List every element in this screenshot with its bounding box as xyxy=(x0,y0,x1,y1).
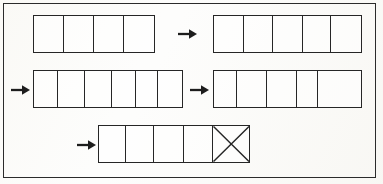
strip-cell xyxy=(112,71,136,107)
strip-cell xyxy=(184,126,213,162)
cell-strip-row1-right xyxy=(213,15,362,53)
strip-cell xyxy=(267,71,297,107)
strip-cell xyxy=(214,16,244,52)
strip-cell xyxy=(158,71,182,107)
right-arrow-icon xyxy=(178,28,197,40)
cell-strip-row1-left xyxy=(33,15,155,53)
strip-cell xyxy=(154,126,184,162)
strip-cell xyxy=(34,16,64,52)
strip-cell xyxy=(99,126,126,162)
strip-cell xyxy=(331,16,361,52)
strip-cell xyxy=(58,71,86,107)
scanned-worksheet-page xyxy=(0,0,383,184)
right-arrow-icon xyxy=(190,84,209,96)
strip-cell xyxy=(136,71,159,107)
strip-cell xyxy=(85,71,112,107)
strip-cell xyxy=(303,16,332,52)
strip-cell xyxy=(126,126,155,162)
strip-cell xyxy=(124,16,154,52)
strip-cell xyxy=(94,16,124,52)
cell-strip-row2-left xyxy=(33,70,183,108)
cell-strip-row3 xyxy=(98,125,250,163)
strip-cell xyxy=(214,71,237,107)
strip-cell xyxy=(244,16,274,52)
strip-cell xyxy=(34,71,58,107)
strip-cell xyxy=(297,71,318,107)
cell-strip-row2-right xyxy=(213,70,362,108)
strip-cell xyxy=(273,16,303,52)
strip-cell xyxy=(64,16,95,52)
strip-cell-crossed xyxy=(213,126,250,162)
right-arrow-icon xyxy=(11,84,30,96)
right-arrow-icon xyxy=(77,139,96,151)
strip-cell xyxy=(237,71,268,107)
cross-out-x-icon xyxy=(213,126,250,162)
strip-cell xyxy=(318,71,361,107)
